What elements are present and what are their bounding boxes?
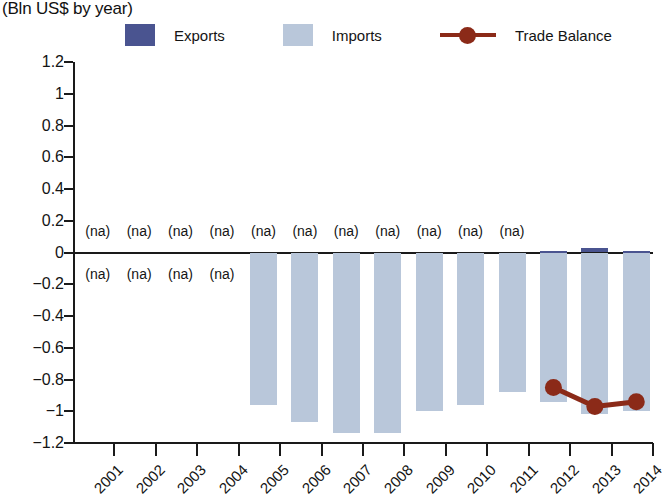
x-tick-label: 2013 [580,461,623,504]
y-tick-label: −0.2 [32,275,64,293]
y-tick-mark [64,315,73,317]
bar-import [291,253,318,423]
x-tick-label: 2014 [622,461,665,504]
x-tick-mark [113,443,115,456]
y-tick-label: 0.8 [42,117,64,135]
na-label-exports: (na) [375,223,400,239]
x-tick-label: 2001 [83,461,126,504]
y-tick-mark [64,93,73,95]
y-tick-mark [64,220,73,222]
y-tick-mark [64,283,73,285]
x-tick-mark [569,443,571,456]
bar-import [581,253,608,415]
bar-import [250,253,277,405]
y-tick-mark [64,188,73,190]
bar-import [499,253,526,393]
legend-trade-balance-line-icon [440,24,496,46]
legend-imports[interactable]: Imports [283,24,382,46]
na-label-exports: (na) [500,223,525,239]
y-tick-mark [64,442,73,444]
y-tick-label: 0.4 [42,180,64,198]
x-tick-mark [196,443,198,456]
y-tick-mark [64,252,73,254]
bar-import [374,253,401,434]
x-tick-mark [155,443,157,456]
na-label-exports: (na) [334,223,359,239]
y-tick-mark [64,61,73,63]
y-tick-mark [64,347,73,349]
y-tick-mark [64,410,73,412]
na-label-imports: (na) [85,266,110,282]
na-label-exports: (na) [417,223,442,239]
legend-trade-balance-label: Trade Balance [515,27,612,44]
x-tick-mark [445,443,447,456]
x-tick-label: 2012 [539,461,582,504]
na-label-imports: (na) [127,266,152,282]
chart-legend: ExportsImportsTrade Balance [125,24,612,46]
y-tick-label: −0.4 [32,307,64,325]
x-tick-mark [403,443,405,456]
x-tick-mark [652,443,654,456]
legend-trade-balance[interactable]: Trade Balance [440,24,612,46]
na-label-exports: (na) [85,223,110,239]
na-label-imports: (na) [168,266,193,282]
na-label-exports: (na) [210,223,235,239]
na-label-exports: (na) [127,223,152,239]
legend-exports[interactable]: Exports [125,24,225,46]
x-tick-mark [528,443,530,456]
x-tick-label: 2003 [166,461,209,504]
bar-export [540,251,567,253]
legend-exports-label: Exports [174,27,225,44]
plot-area: (na)(na)(na)(na)(na)(na)(na)(na)(na)(na)… [73,62,653,443]
x-tick-mark [362,443,364,456]
y-tick-label: 0.2 [42,212,64,230]
x-tick-mark [321,443,323,456]
y-tick-mark [64,156,73,158]
x-tick-label: 2006 [290,461,333,504]
x-tick-label: 2011 [498,461,541,504]
y-axis-labels: 1.210.80.60.40.20−0.2−0.4−0.6−0.8−1−1.2 [0,62,64,443]
legend-imports-swatch-icon [283,24,313,46]
x-tick-mark [279,443,281,456]
na-label-exports: (na) [292,223,317,239]
x-tick-mark [486,443,488,456]
x-tick-label: 2005 [249,461,292,504]
y-tick-label: −0.6 [32,339,64,357]
y-tick-label: −1 [46,402,64,420]
na-label-imports: (na) [210,266,235,282]
na-label-exports: (na) [458,223,483,239]
na-label-exports: (na) [168,223,193,239]
bar-export [623,251,650,253]
y-tick-label: 1.2 [42,53,64,71]
y-tick-label: 0.6 [42,148,64,166]
x-tick-label: 2002 [125,461,168,504]
na-label-exports: (na) [251,223,276,239]
bar-import [416,253,443,412]
bar-import [457,253,484,405]
x-tick-label: 2010 [456,461,499,504]
y-tick-label: −0.8 [32,371,64,389]
bar-import [623,253,650,412]
y-tick-label: 1 [55,85,64,103]
y-tick-label: −1.2 [32,434,64,452]
bar-import [540,253,567,402]
x-tick-mark [611,443,613,456]
y-tick-mark [64,125,73,127]
x-tick-mark [238,443,240,456]
y-tick-label: 0 [55,244,64,262]
legend-imports-label: Imports [332,27,382,44]
chart-subtitle: (Bln US$ by year) [2,0,133,19]
x-tick-label: 2007 [332,461,375,504]
x-tick-label: 2008 [373,461,416,504]
legend-exports-swatch-icon [125,24,155,46]
x-tick-label: 2009 [415,461,458,504]
x-axis-labels: 2001200220032004200520062007200820092010… [73,443,653,504]
y-tick-mark [64,379,73,381]
bar-export [581,248,608,253]
x-tick-label: 2004 [208,461,251,504]
bar-import [333,253,360,434]
